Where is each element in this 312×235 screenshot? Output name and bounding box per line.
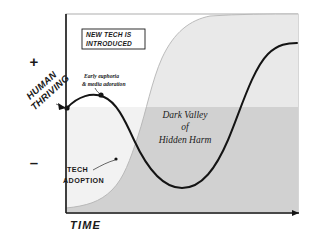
y-axis-title: HUMAN THRIVING xyxy=(21,64,71,113)
euphoria-note-line2: & media adoration xyxy=(82,81,126,87)
euphoria-note: Early euphoria & media adoration xyxy=(82,73,126,95)
new-tech-callout-line2: INTRODUCED xyxy=(86,40,132,47)
dark-valley-label-line1: Dark Valley xyxy=(161,110,208,120)
euphoria-note-line1: Early euphoria xyxy=(83,73,119,79)
y-axis-positive-sign: + xyxy=(30,53,39,70)
dark-valley-label-line3: Hidden Harm xyxy=(158,135,212,145)
tech-adoption-label-line2: ADOPTION xyxy=(63,176,104,185)
tech-adoption-leader-endpoint xyxy=(114,157,117,160)
concept-chart-svg: + – HUMAN THRIVING TIME NEW TECH IS INTR… xyxy=(0,0,312,235)
x-axis-title: TIME xyxy=(70,219,101,231)
new-tech-callout: NEW TECH IS INTRODUCED xyxy=(82,29,145,49)
y-axis-negative-sign: – xyxy=(30,154,38,171)
tech-adoption-label-line1: TECH xyxy=(67,165,88,174)
chart-figure: + – HUMAN THRIVING TIME NEW TECH IS INTR… xyxy=(0,0,312,235)
new-tech-callout-line1: NEW TECH IS xyxy=(86,31,132,38)
euphoria-note-leader-line xyxy=(95,88,101,95)
